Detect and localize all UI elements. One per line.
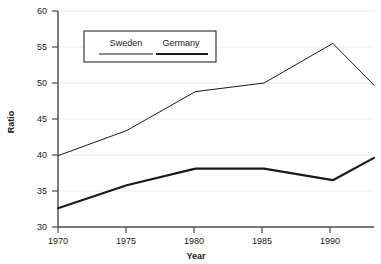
y-tick-label-55: 55 [37, 42, 47, 52]
x-tick-label-1985: 1985 [252, 236, 272, 246]
legend-label-sweden: Sweden [110, 38, 143, 48]
x-axis-title: Year [186, 251, 206, 261]
x-tick-label-1970: 1970 [48, 236, 68, 246]
x-tick-label-1980: 1980 [184, 236, 204, 246]
y-tick-label-50: 50 [37, 78, 47, 88]
chart-container: 60 55 50 45 40 35 30 1970 1975 1980 1985… [0, 0, 381, 264]
y-tick-label-60: 60 [37, 6, 47, 16]
y-axis-title: Ratio [6, 110, 16, 133]
legend: Sweden Germany [84, 31, 216, 62]
x-tick-label-1990: 1990 [320, 236, 340, 246]
y-tick-label-35: 35 [37, 186, 47, 196]
y-tick-label-40: 40 [37, 150, 47, 160]
y-tick-label-45: 45 [37, 114, 47, 124]
y-tick-label-30: 30 [37, 222, 47, 232]
x-tick-label-1975: 1975 [116, 236, 136, 246]
line-chart: 60 55 50 45 40 35 30 1970 1975 1980 1985… [0, 0, 381, 264]
legend-label-germany: Germany [162, 38, 200, 48]
